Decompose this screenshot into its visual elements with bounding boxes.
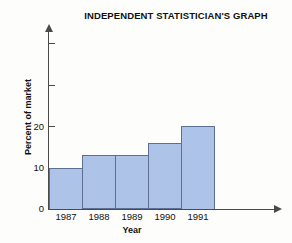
y-tick-label-10: 10 xyxy=(16,162,44,173)
bar-1990 xyxy=(148,143,182,210)
y-tick-label-20: 20 xyxy=(16,121,44,132)
bar-1988 xyxy=(82,155,116,209)
y-tick-20 xyxy=(48,126,55,127)
x-axis-title: Year xyxy=(49,225,215,235)
y-tick-label-0: 0 xyxy=(16,203,44,214)
chart-title: INDEPENDENT STATISTICIAN'S GRAPH xyxy=(66,10,286,21)
bar-1989 xyxy=(115,155,149,209)
y-tick-30 xyxy=(48,85,55,86)
x-axis-arrow-icon xyxy=(274,205,282,213)
bar-1991 xyxy=(181,126,215,210)
y-tick-40 xyxy=(48,43,55,44)
x-axis-baseline xyxy=(48,209,215,210)
y-axis-arrow-icon xyxy=(45,24,53,32)
bar-1987 xyxy=(49,168,83,210)
bar-chart: INDEPENDENT STATISTICIAN'S GRAPH Percent… xyxy=(0,0,292,243)
x-tick-label-1991: 1991 xyxy=(178,211,218,222)
